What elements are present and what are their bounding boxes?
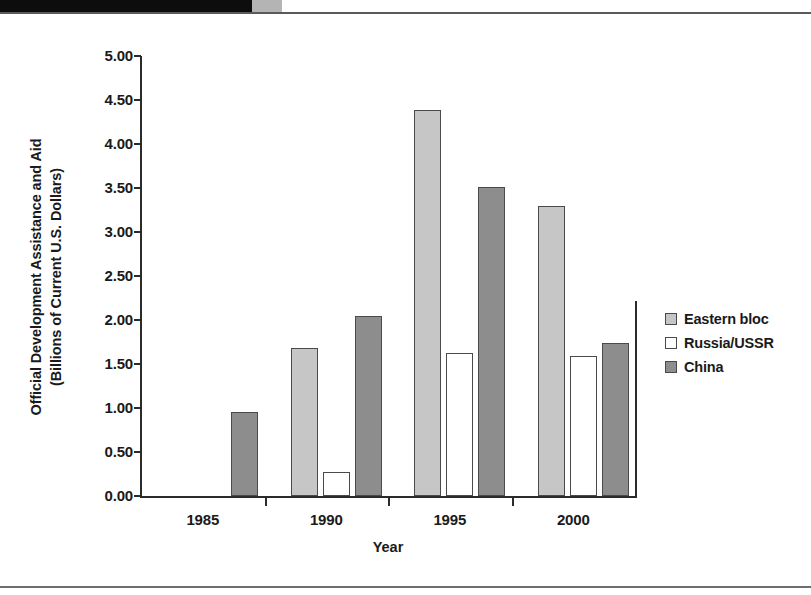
legend-swatch-icon (665, 361, 677, 373)
page-bottom-divider (0, 586, 811, 588)
y-tick-label: 1.00 (45, 399, 133, 417)
y-tick-mark (134, 407, 141, 409)
plot-area: 5.004.504.003.503.002.502.001.501.000.50… (141, 56, 635, 496)
bar-russia-ussr-1990 (323, 472, 350, 496)
bar-eastern-bloc-2000 (538, 206, 565, 496)
bar-china-2000 (602, 343, 629, 496)
y-tick-label: 3.00 (45, 223, 133, 241)
y-tick-label: 2.50 (45, 267, 133, 285)
y-tick-mark (134, 363, 141, 365)
bar-eastern-bloc-1990 (291, 348, 318, 496)
y-tick-label: 0.50 (45, 443, 133, 461)
y-tick-mark (134, 143, 141, 145)
y-tick-label: 0.00 (45, 487, 133, 505)
legend-item-russia-ussr[interactable]: Russia/USSR (665, 331, 811, 355)
bar-china-1990 (355, 316, 382, 496)
x-tick-mark (265, 496, 267, 506)
y-tick-label: 1.50 (45, 355, 133, 373)
bar-russia-ussr-1995 (446, 353, 473, 496)
y-tick-mark (134, 451, 141, 453)
legend-item-eastern-bloc[interactable]: Eastern bloc (665, 307, 811, 331)
bar-chart-figure: Official Development Assistance and Aid … (0, 13, 811, 586)
legend-item-label: Eastern bloc (684, 311, 769, 327)
y-tick-mark (134, 55, 141, 57)
x-tick-label: 1995 (390, 511, 510, 528)
y-tick-mark (134, 231, 141, 233)
bar-eastern-bloc-1995 (414, 110, 441, 496)
legend-item-label: Russia/USSR (684, 335, 774, 351)
y-tick-mark (134, 187, 141, 189)
y-axis-title-line-1: Official Development Assistance and Aid (26, 67, 46, 487)
y-tick-label: 3.50 (45, 179, 133, 197)
plot-right-border (635, 301, 637, 498)
y-tick-label: 4.00 (45, 135, 133, 153)
y-tick-label: 2.00 (45, 311, 133, 329)
y-tick-mark (134, 495, 141, 497)
x-tick-label: 2000 (513, 511, 633, 528)
x-tick-label: 1985 (143, 511, 263, 528)
y-tick-label: 4.50 (45, 91, 133, 109)
legend-item-china[interactable]: China (665, 355, 811, 379)
x-axis-title: Year (141, 539, 635, 555)
y-tick-mark (134, 99, 141, 101)
x-tick-label: 1990 (266, 511, 386, 528)
bar-russia-ussr-2000 (570, 356, 597, 496)
legend-swatch-icon (665, 313, 677, 325)
bar-china-1985 (231, 412, 258, 496)
x-tick-mark (388, 496, 390, 506)
legend-item-label: China (684, 359, 723, 375)
y-tick-mark (134, 275, 141, 277)
legend-swatch-icon (665, 337, 677, 349)
y-tick-label: 5.00 (45, 47, 133, 65)
bar-china-1995 (478, 187, 505, 496)
chart-legend: Eastern blocRussia/USSRChina (665, 307, 811, 379)
y-tick-mark (134, 319, 141, 321)
x-tick-mark (512, 496, 514, 506)
